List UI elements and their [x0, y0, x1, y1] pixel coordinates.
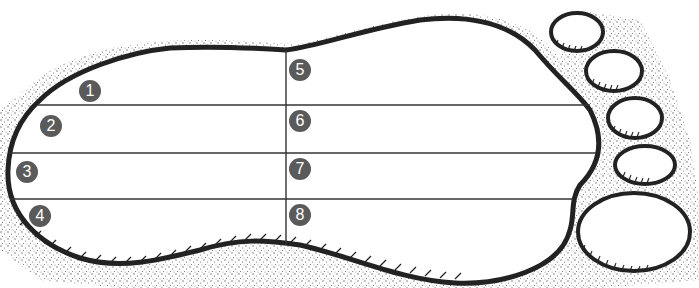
toe-1: [551, 13, 603, 51]
region-badge-2: 2: [40, 115, 62, 137]
footprint-diagram: 1 2 3 4 5 6 7 8: [0, 0, 699, 288]
region-badge-8: 8: [289, 204, 311, 226]
toe-2: [586, 51, 642, 91]
region-badge-1: 1: [79, 80, 101, 102]
toe-3: [608, 98, 662, 138]
region-badge-3: 3: [16, 161, 38, 183]
toe-4: [615, 146, 675, 184]
region-badge-5: 5: [289, 59, 311, 81]
region-badge-7: 7: [289, 158, 311, 180]
footprint-drawing: [0, 0, 699, 288]
region-badge-4: 4: [29, 205, 51, 227]
region-badge-6: 6: [289, 110, 311, 132]
toe-5: [578, 193, 690, 271]
